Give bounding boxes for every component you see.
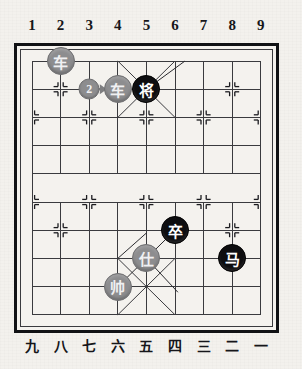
gray-chariot-center[interactable]: 车 xyxy=(104,75,132,103)
gray-marshal[interactable]: 帅 xyxy=(104,273,132,301)
black-general[interactable]: 将 xyxy=(132,75,160,103)
move-number-badge[interactable]: 2 xyxy=(79,79,100,100)
gray-chariot-left[interactable]: 车 xyxy=(47,47,75,75)
gray-advisor[interactable]: 仕 xyxy=(132,244,160,272)
col-label-bottom-3: 七 xyxy=(76,336,102,358)
xiangqi-board[interactable]: 123456789 车车将卒马仕帅2 九八七六五四三二一 xyxy=(0,0,302,369)
col-label-bottom-8: 二 xyxy=(219,336,245,358)
col-label-bottom-9: 一 xyxy=(248,336,274,358)
col-label-bottom-7: 三 xyxy=(191,336,217,358)
board-grid xyxy=(0,0,302,369)
col-label-bottom-4: 六 xyxy=(105,336,131,358)
column-labels-bottom: 九八七六五四三二一 xyxy=(0,336,302,358)
black-pawn[interactable]: 卒 xyxy=(161,216,189,244)
col-label-bottom-1: 九 xyxy=(19,336,45,358)
black-horse[interactable]: 马 xyxy=(218,244,246,272)
col-label-bottom-2: 八 xyxy=(48,336,74,358)
col-label-bottom-5: 五 xyxy=(133,336,159,358)
col-label-bottom-6: 四 xyxy=(162,336,188,358)
